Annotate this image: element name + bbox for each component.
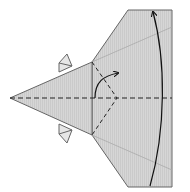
top-tab [59,54,72,72]
origami-diagram [0,0,190,192]
bottom-tab [59,124,72,143]
